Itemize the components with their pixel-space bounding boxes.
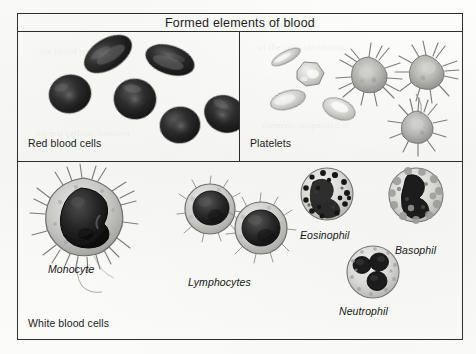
formed-elements-figure: Formed elements of blood <box>17 13 463 340</box>
top-panel-row: Red blood cells <box>18 32 462 162</box>
figure-title: Formed elements of blood <box>165 16 315 30</box>
panel-platelets: Platelets <box>240 32 462 161</box>
caption-lymphocytes: Lymphocytes <box>188 276 251 288</box>
panel-red-blood-cells: Red blood cells <box>18 32 240 161</box>
panel-label-red-blood-cells: Red blood cells <box>28 137 101 149</box>
panel-white-blood-cells: Monocyte Lymphocytes Eosinophil Basophil… <box>18 162 462 339</box>
caption-basophil: Basophil <box>395 244 436 256</box>
caption-neutrophil: Neutrophil <box>339 305 388 317</box>
caption-eosinophil: Eosinophil <box>300 229 349 241</box>
figure-title-band: Formed elements of blood <box>18 14 462 32</box>
panel-label-platelets: Platelets <box>250 137 291 149</box>
caption-monocyte: Monocyte <box>48 263 94 275</box>
panel-label-white-blood-cells: White blood cells <box>28 317 109 329</box>
